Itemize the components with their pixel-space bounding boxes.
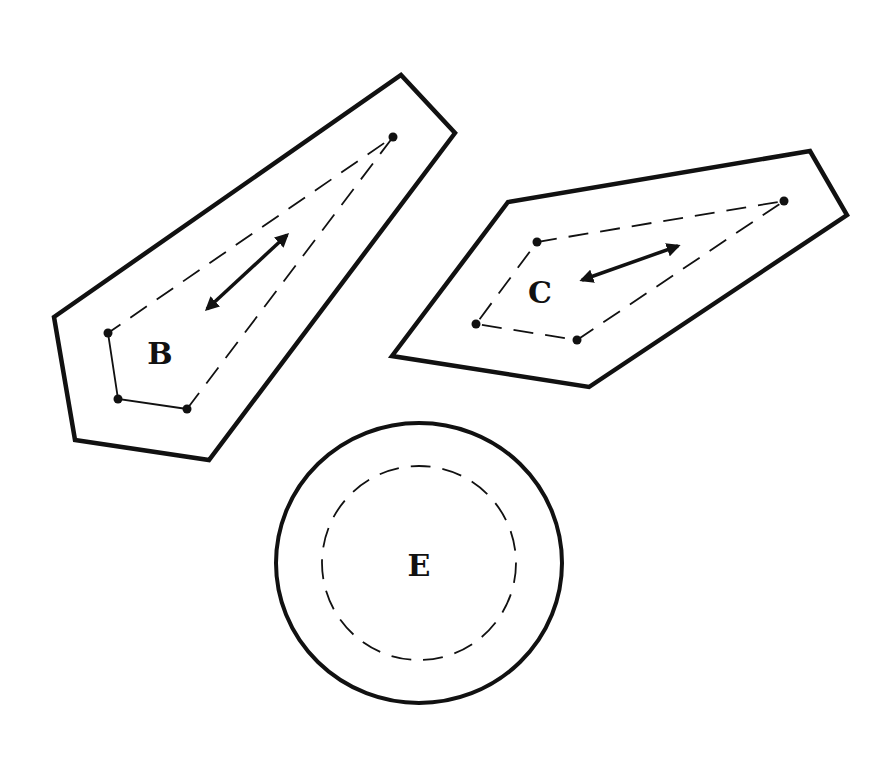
region-c: C [392,151,847,387]
region-b: B [54,75,455,460]
region-e: E [276,423,562,703]
region-b-point [114,395,123,404]
diagram-canvas: B C E [0,0,895,757]
region-c-point [533,238,542,247]
region-c-label: C [528,275,552,310]
region-b-outline [54,75,455,460]
region-b-point [104,329,113,338]
region-b-label: B [147,336,172,371]
region-b-point [389,133,398,142]
region-c-point [573,336,582,345]
region-c-outline [392,151,847,387]
region-e-label: E [408,548,431,583]
region-c-point [780,197,789,206]
region-c-point [472,320,481,329]
region-b-point [183,405,192,414]
